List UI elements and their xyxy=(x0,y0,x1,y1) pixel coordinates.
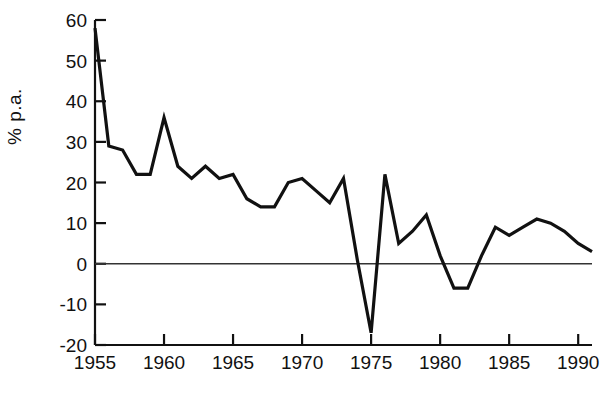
data-series-line xyxy=(95,28,592,333)
x-tick-label: 1960 xyxy=(143,352,185,373)
x-tick-label: 1970 xyxy=(281,352,323,373)
y-tick-label: 40 xyxy=(66,91,87,112)
chart-plot-area: 6050403020100-10-20 19551960196519701975… xyxy=(0,0,605,397)
x-tick-labels: 19551960196519701975198019851990 xyxy=(74,352,599,373)
y-tick-label: 60 xyxy=(66,10,87,31)
x-tick-label: 1980 xyxy=(419,352,461,373)
x-tick-label: 1975 xyxy=(350,352,392,373)
y-tick-labels: 6050403020100-10-20 xyxy=(60,10,87,356)
y-tick-label: 0 xyxy=(76,254,87,275)
y-tick-label: -10 xyxy=(60,294,87,315)
x-tick-label: 1990 xyxy=(557,352,599,373)
y-tick-label: 10 xyxy=(66,213,87,234)
x-tick-label: 1965 xyxy=(212,352,254,373)
x-tick-label: 1955 xyxy=(74,352,116,373)
y-tick-label: 30 xyxy=(66,132,87,153)
y-tick-label: 20 xyxy=(66,173,87,194)
chart-figure: % p.a. 6050403020100-10-20 1955196019651… xyxy=(0,0,605,397)
x-tick-marks xyxy=(95,334,578,345)
x-tick-label: 1985 xyxy=(488,352,530,373)
y-tick-label: 50 xyxy=(66,51,87,72)
